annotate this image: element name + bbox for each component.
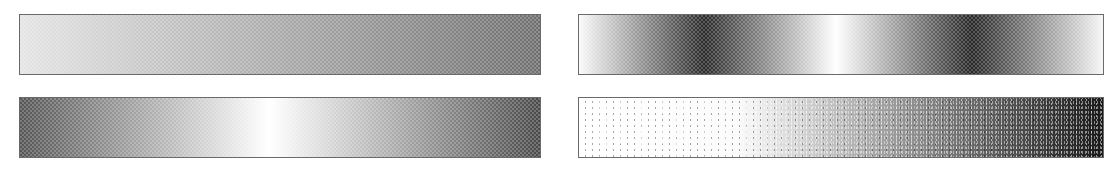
halftone-dither-overlay (20, 15, 540, 74)
halftone-dither-overlay (579, 15, 1103, 74)
error-diffusion-noise-overlay (579, 98, 1103, 157)
gradient-swatch-bottom-right (578, 97, 1104, 158)
gradient-swatch-bottom-left (19, 97, 541, 158)
gradient-swatch-top-right (578, 14, 1104, 75)
gradient-swatch-top-left (19, 14, 541, 75)
halftone-dither-overlay (20, 98, 540, 157)
